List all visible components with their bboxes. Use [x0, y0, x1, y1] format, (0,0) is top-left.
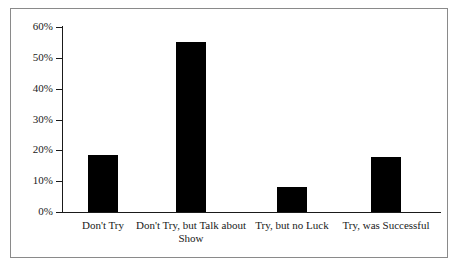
y-tick-label: 30% — [1, 114, 53, 125]
bar — [88, 155, 118, 212]
y-tick-mark — [56, 27, 62, 28]
y-tick-mark — [56, 150, 62, 151]
plot-area: 0%10%20%30%40%50%60% Don't TryDon't Try,… — [0, 0, 459, 271]
x-axis-label: Try, was Successful — [326, 219, 446, 232]
bar — [277, 187, 307, 212]
bar — [371, 157, 401, 213]
y-tick-mark — [56, 89, 62, 90]
bar — [176, 42, 206, 212]
y-tick-label: 50% — [1, 52, 53, 63]
y-tick-label: 10% — [1, 175, 53, 186]
y-tick-mark — [56, 212, 62, 213]
y-tick-label: 0% — [1, 206, 53, 217]
y-tick-mark — [56, 120, 62, 121]
y-tick-mark — [56, 181, 62, 182]
y-tick-mark — [56, 58, 62, 59]
x-axis-line — [62, 212, 441, 213]
y-tick-label: 60% — [1, 21, 53, 32]
y-tick-label: 40% — [1, 83, 53, 94]
y-axis-line — [62, 26, 63, 213]
y-tick-label: 20% — [1, 144, 53, 155]
chart-figure: 0%10%20%30%40%50%60% Don't TryDon't Try,… — [0, 0, 459, 271]
